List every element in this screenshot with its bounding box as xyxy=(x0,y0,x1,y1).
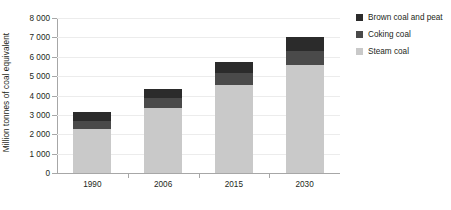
legend-item-label: Brown coal and peat xyxy=(368,13,443,22)
stacked-bar-chart: Million tonnes of coal equivalent 01 000… xyxy=(0,0,451,210)
bar-segment xyxy=(144,108,182,173)
bar-segment xyxy=(286,37,324,51)
bar-segment xyxy=(73,121,111,130)
y-axis-tick-mark xyxy=(52,154,57,155)
legend-item-label: Steam coal xyxy=(368,47,409,56)
y-axis-tick-label: 0 xyxy=(2,169,50,178)
y-axis-tick-label: 3 000 xyxy=(2,110,50,119)
bar-segment xyxy=(215,62,253,74)
plot-area xyxy=(57,18,340,173)
legend-swatch-icon xyxy=(356,48,363,55)
bar-segment xyxy=(286,65,324,174)
bar-segment xyxy=(215,85,253,173)
x-axis-tick-label: 1990 xyxy=(83,180,101,189)
x-axis-tick-mark xyxy=(128,174,129,178)
legend-item[interactable]: Steam coal xyxy=(356,43,451,60)
y-axis-tick-mark xyxy=(52,57,57,58)
y-axis-tick-mark xyxy=(52,96,57,97)
legend-item[interactable]: Coking coal xyxy=(356,26,451,43)
bar-segment xyxy=(73,112,111,121)
y-axis-tick-label: 8 000 xyxy=(2,14,50,23)
gridline xyxy=(57,18,340,19)
y-axis-tick-label: 4 000 xyxy=(2,91,50,100)
x-axis-tick-label: 2030 xyxy=(296,180,314,189)
legend-item[interactable]: Brown coal and peat xyxy=(356,9,451,26)
bar-segment xyxy=(144,89,182,99)
bar-segment xyxy=(144,98,182,108)
y-axis-tick-label: 1 000 xyxy=(2,149,50,158)
bar-group xyxy=(286,37,324,173)
y-axis-tick-labels: 01 0002 0003 0004 0005 0006 0007 0008 00… xyxy=(0,0,50,210)
x-axis-tick-label: 2015 xyxy=(225,180,243,189)
y-axis-tick-label: 6 000 xyxy=(2,52,50,61)
y-axis-tick-mark xyxy=(52,18,57,19)
y-axis-tick-mark xyxy=(52,37,57,38)
x-axis-tick-mark xyxy=(199,174,200,178)
legend-swatch-icon xyxy=(356,14,363,21)
y-axis-tick-label: 7 000 xyxy=(2,33,50,42)
bar-segment xyxy=(286,51,324,65)
y-axis-tick-mark xyxy=(52,173,57,174)
y-axis-tick-label: 2 000 xyxy=(2,130,50,139)
bar-group xyxy=(215,62,253,173)
legend-item-label: Coking coal xyxy=(368,30,411,39)
x-axis-tick-label: 2006 xyxy=(154,180,172,189)
bar-group xyxy=(73,112,111,173)
y-axis-tick-mark xyxy=(52,115,57,116)
bar-segment xyxy=(215,73,253,85)
y-axis-tick-mark xyxy=(52,76,57,77)
legend-swatch-icon xyxy=(356,31,363,38)
bar-group xyxy=(144,89,182,173)
x-axis-tick-mark xyxy=(269,174,270,178)
bar-segment xyxy=(73,129,111,173)
y-axis-tick-mark xyxy=(52,134,57,135)
chart-legend: Brown coal and peatCoking coalSteam coal xyxy=(356,9,451,60)
y-axis-tick-label: 5 000 xyxy=(2,72,50,81)
